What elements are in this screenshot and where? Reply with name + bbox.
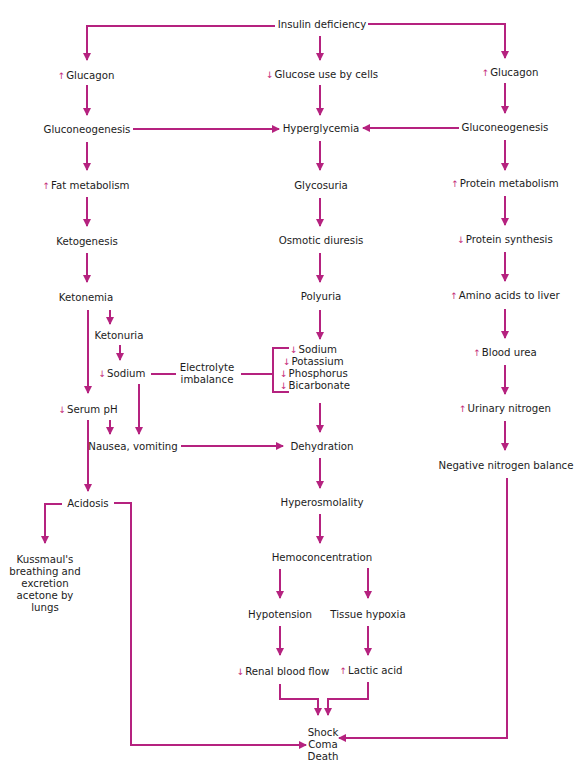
decrease-arrow-icon: ↓ [457,235,465,245]
node-hemoconcentration: Hemoconcentration [272,552,373,564]
node-polyuria: Polyuria [301,291,342,303]
node-sodium-left: ↓Sodium [99,368,146,380]
node-amino-acids: ↑Amino acids to liver [450,290,560,302]
node-lactic-acid: ↑Lactic acid [340,665,403,677]
node-negative-nitrogen: Negative nitrogen balance [439,460,574,472]
node-osmotic-diuresis: Osmotic diuresis [279,235,364,247]
node-ketonemia: Ketonemia [59,292,113,304]
arrow-renal-to-shock [280,684,318,715]
node-blood-urea: ↑Blood urea [473,347,536,359]
increase-arrow-icon: ↑ [482,68,490,78]
node-fat-metabolism: ↑Fat metabolism [43,180,130,192]
node-tissue-hypoxia: Tissue hypoxia [330,609,405,621]
decrease-arrow-icon: ↓ [266,70,274,80]
node-glucagon-right: ↑Glucagon [482,67,539,79]
electrolyte-item: ↓Potassium [278,356,358,368]
increase-arrow-icon: ↑ [340,666,348,676]
increase-arrow-icon: ↑ [451,179,459,189]
node-glycosuria: Glycosuria [294,180,348,192]
electrolyte-item: ↓Phosphorus [278,368,358,380]
node-protein-metabolism: ↑Protein metabolism [451,178,559,190]
dka-flowchart: Insulin deficiency ↑Glucagon ↓Glucose us… [0,0,583,773]
increase-arrow-icon: ↑ [459,404,467,414]
electrolyte-item: ↓Bicarbonate [278,380,358,392]
node-acidosis: Acidosis [67,498,108,510]
node-renal-blood-flow: ↓Renal blood flow [237,666,330,678]
node-ketogenesis: Ketogenesis [56,236,118,248]
node-electrolyte-list: ↓Sodium ↓Potassium ↓Phosphorus ↓Bicarbon… [278,344,358,392]
node-ketonuria: Ketonuria [95,330,144,342]
node-electrolyte-imbalance: Electrolyte imbalance [167,362,247,386]
arrow-insulin-to-glucagon-left [87,26,275,60]
increase-arrow-icon: ↑ [43,181,51,191]
node-dehydration: Dehydration [290,441,353,453]
node-protein-synthesis: ↓Protein synthesis [457,234,552,246]
node-kussmaul: Kussmaul's breathing and excretion aceto… [2,554,88,614]
node-gluconeogenesis-right: Gluconeogenesis [462,122,549,134]
electrolyte-item: ↓Sodium [278,344,358,356]
node-nausea-vomiting: Nausea, vomiting [88,441,177,453]
arrow-acidosis-to-shock [114,503,306,745]
node-hyperglycemia: Hyperglycemia [283,123,360,135]
arrow-insulin-to-glucagon-right [368,24,505,58]
node-insulin-deficiency: Insulin deficiency [278,19,367,31]
node-hypotension: Hypotension [248,609,312,621]
node-gluconeogenesis-left: Gluconeogenesis [44,124,131,136]
decrease-arrow-icon: ↓ [58,405,66,415]
node-urinary-nitrogen: ↑Urinary nitrogen [459,403,551,415]
increase-arrow-icon: ↑ [450,291,458,301]
decrease-arrow-icon: ↓ [237,667,245,677]
arrow-acidosis-to-kussmaul [45,504,62,543]
node-serum-ph: ↓Serum pH [58,404,117,416]
arrow-lactic-to-shock [328,682,368,715]
increase-arrow-icon: ↑ [58,71,66,81]
increase-arrow-icon: ↑ [473,348,481,358]
node-glucagon-left: ↑Glucagon [58,70,115,82]
node-hyperosmolality: Hyperosmolality [281,497,364,509]
node-shock-coma-death: Shock Coma Death [298,727,348,763]
node-glucose-use: ↓Glucose use by cells [266,69,378,81]
decrease-arrow-icon: ↓ [99,369,107,379]
